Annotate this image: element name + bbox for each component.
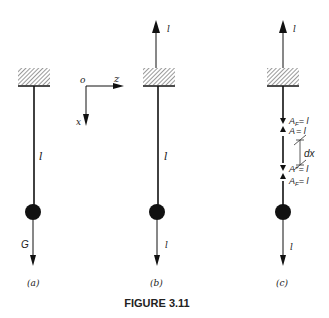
fixed-support — [18, 68, 50, 85]
arrowhead-down-icon — [30, 255, 36, 266]
coordinate-axes: o z x — [76, 73, 124, 127]
x-axis-label: x — [76, 117, 81, 127]
panel-a: l G (a) — [18, 68, 50, 288]
element-length-label: dx — [304, 148, 316, 159]
arrowhead-up-icon — [279, 20, 287, 33]
gravity-label: G — [21, 239, 29, 250]
arrowhead-up-icon — [280, 173, 286, 179]
arrowhead-down-icon — [280, 255, 286, 266]
arrowhead-down-icon — [83, 114, 89, 126]
fixed-support — [267, 68, 299, 85]
pendulum-bob — [275, 204, 291, 220]
top-force-label: l — [293, 24, 296, 34]
bottom-force-label: l — [165, 240, 168, 250]
arrowhead-up-icon — [280, 126, 286, 132]
panel-b-label: (b) — [150, 278, 163, 288]
panel-a-label: (a) — [27, 278, 40, 288]
pendulum-bob — [149, 204, 165, 220]
arrowhead-down-icon — [280, 118, 286, 124]
panel-c: l AF= l A= l dx A+= l AF= l — [267, 20, 316, 288]
annotation-a-lower: A+= l — [288, 164, 309, 174]
pendulum-bob — [25, 204, 41, 220]
fixed-support — [143, 68, 175, 85]
origin-label: o — [80, 75, 86, 85]
arrowhead-down-icon — [154, 255, 160, 266]
figure-diagram: l G (a) o z x l l l (b) l — [0, 0, 329, 318]
bottom-force-label: l — [290, 242, 293, 252]
z-axis-label: z — [113, 73, 120, 84]
rod-length-label: l — [39, 150, 43, 163]
panel-b: l l l (b) — [143, 20, 175, 288]
rod-length-label: l — [164, 150, 168, 163]
panel-c-label: (c) — [276, 278, 289, 288]
annotation-a-upper: A= l — [288, 126, 307, 136]
annotation-af-lower: AF= l — [288, 176, 309, 187]
top-force-label: l — [167, 24, 170, 34]
figure-caption: FIGURE 3.11 — [124, 297, 189, 309]
arrowhead-up-icon — [152, 20, 160, 33]
arrowhead-down-icon — [280, 165, 286, 171]
